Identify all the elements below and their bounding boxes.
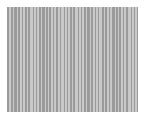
barcode-stripe-group — [7, 7, 138, 112]
barcode-figure — [0, 0, 145, 123]
barcode-plot-area — [7, 7, 138, 112]
barcode-stripe — [137, 7, 138, 112]
